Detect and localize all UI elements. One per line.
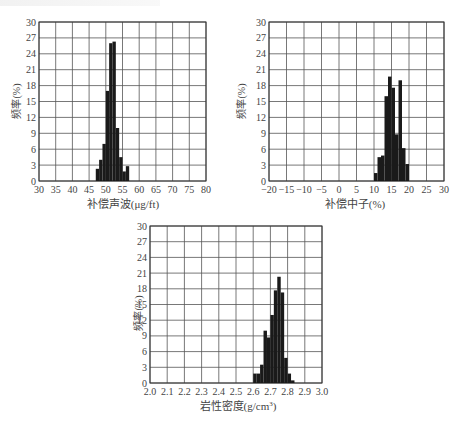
x-tick-label: −20: [261, 184, 277, 195]
y-axis-label: 频率(%): [132, 296, 145, 331]
histogram-bar: [392, 88, 396, 181]
histogram-bar: [274, 290, 277, 383]
histogram-bar: [281, 292, 284, 383]
x-tick-label: 2.5: [230, 386, 243, 397]
histogram-bar: [374, 173, 378, 181]
histogram-compensated-sonic: 036912151821242730 303540455055606570758…: [0, 0, 229, 212]
x-tick-label: 70: [168, 184, 178, 195]
histogram-bar: [267, 337, 270, 383]
y-tick-label: 3: [261, 160, 266, 171]
x-tick-label: 25: [422, 184, 432, 195]
y-tick-label: 24: [137, 252, 147, 263]
y-tick-label: 6: [31, 144, 36, 155]
bars: [374, 77, 409, 181]
histogram-bar: [406, 164, 410, 181]
histogram-bar: [96, 169, 99, 181]
y-ticks: 036912151821242730: [256, 17, 266, 187]
histogram-bar: [264, 331, 267, 383]
x-tick-label: 35: [51, 184, 61, 195]
histogram-bar: [123, 171, 126, 181]
grid: [150, 226, 322, 383]
y-tick-label: 9: [142, 330, 147, 341]
x-tick-label: −15: [279, 184, 295, 195]
histogram-bar: [253, 374, 256, 383]
histogram-bar: [126, 166, 129, 181]
x-axis-label: 岩性密度(g/cm3): [200, 399, 277, 413]
x-tick-label: 2.8: [281, 386, 294, 397]
histogram-bar: [112, 42, 115, 181]
x-tick-label: −10: [296, 184, 312, 195]
y-tick-label: 3: [142, 362, 147, 373]
histogram-bar: [119, 157, 122, 181]
x-tick-label: 2.4: [213, 386, 226, 397]
histogram-bar: [388, 77, 392, 181]
y-tick-label: 15: [26, 96, 36, 107]
y-tick-label: 9: [261, 128, 266, 139]
y-tick-label: 27: [26, 32, 36, 43]
x-tick-label: 0: [337, 184, 342, 195]
y-tick-label: 18: [26, 80, 36, 91]
histogram-bar: [257, 374, 260, 383]
y-tick-label: 6: [261, 144, 266, 155]
histogram-compensated-neutron: 036912151821242730 −20−15−10−50510152025…: [225, 0, 458, 212]
histogram-bar: [99, 160, 102, 181]
x-axis-label: 补偿中子(%): [325, 197, 386, 211]
y-tick-label: 12: [256, 112, 266, 123]
histogram-bar: [399, 80, 403, 181]
histogram-bar: [395, 134, 399, 181]
x-tick-label: 55: [118, 184, 128, 195]
x-tick-label: 10: [369, 184, 379, 195]
histogram-bar: [381, 156, 385, 181]
x-tick-label: 2.3: [195, 386, 208, 397]
y-tick-label: 30: [26, 17, 36, 28]
x-tick-label: 75: [184, 184, 194, 195]
x-tick-label: 45: [84, 184, 94, 195]
x-tick-label: 65: [151, 184, 161, 195]
histogram-lithology-density: 036912151821242730 2.02.12.22.32.42.52.6…: [130, 210, 330, 423]
histogram-bar: [402, 148, 406, 181]
y-tick-label: 21: [137, 268, 147, 279]
x-tick-label: 30: [439, 184, 449, 195]
chart-svg: 036912151821242730 303540455055606570758…: [0, 0, 229, 212]
histogram-bar: [270, 315, 273, 383]
x-tick-label: 60: [134, 184, 144, 195]
x-tick-label: 2.1: [161, 386, 174, 397]
y-tick-label: 18: [256, 80, 266, 91]
x-ticks: 3035404550556065707580: [34, 184, 211, 195]
bars: [96, 42, 129, 181]
histogram-bar: [260, 365, 263, 383]
x-tick-label: 5: [354, 184, 359, 195]
histogram-bar: [102, 144, 105, 181]
x-tick-label: 2.9: [299, 386, 312, 397]
x-tick-label: 40: [67, 184, 77, 195]
x-tick-label: 2.6: [247, 386, 260, 397]
y-tick-label: 27: [137, 236, 147, 247]
y-tick-label: 12: [26, 112, 36, 123]
x-tick-label: 2.0: [144, 386, 157, 397]
y-ticks: 036912151821242730: [26, 17, 36, 187]
y-tick-label: 24: [26, 48, 36, 59]
histogram-bar: [106, 91, 109, 181]
chart-svg: 036912151821242730 −20−15−10−50510152025…: [225, 0, 458, 212]
x-tick-label: 2.7: [264, 386, 277, 397]
y-tick-label: 6: [142, 346, 147, 357]
x-tick-label: 30: [34, 184, 44, 195]
x-axis-label: 补偿声波(μg/ft): [87, 197, 160, 211]
histogram-bar: [277, 277, 280, 383]
x-tick-label: 3.0: [316, 386, 329, 397]
y-tick-label: 15: [256, 96, 266, 107]
y-tick-label: 27: [256, 32, 266, 43]
y-tick-label: 3: [31, 160, 36, 171]
histogram-bar: [109, 43, 112, 181]
y-tick-label: 30: [137, 221, 147, 232]
x-tick-label: 50: [101, 184, 111, 195]
chart-svg: 036912151821242730 2.02.12.22.32.42.52.6…: [130, 210, 330, 423]
y-tick-label: 21: [256, 64, 266, 75]
y-tick-label: 24: [256, 48, 266, 59]
histogram-bar: [288, 374, 291, 383]
histogram-bar: [116, 128, 119, 181]
y-tick-label: 21: [26, 64, 36, 75]
y-tick-label: 30: [256, 17, 266, 28]
grid: [269, 22, 444, 181]
x-tick-label: 80: [201, 184, 211, 195]
